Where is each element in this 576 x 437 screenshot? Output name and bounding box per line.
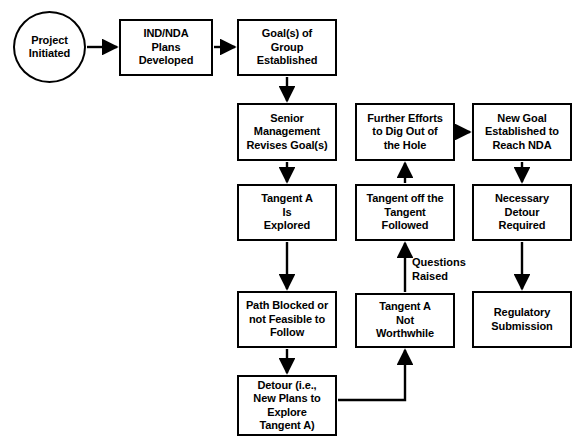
node-detour-new-plans[interactable]: Detour (i.e., New Plans to Explore Tange… — [237, 375, 337, 436]
node-further-efforts-dig-out[interactable]: Further Efforts to Dig Out of the Hole — [355, 103, 455, 161]
node-label: Goal(s) of Group Established — [255, 27, 320, 68]
node-label: Tangent off the Tangent Followed — [364, 192, 445, 233]
node-tangent-a-is-explored[interactable]: Tangent A Is Explored — [237, 184, 337, 241]
node-goals-of-group-established[interactable]: Goal(s) of Group Established — [237, 19, 337, 76]
node-new-goal-established-reach-nda[interactable]: New Goal Established to Reach NDA — [472, 103, 572, 161]
node-label: Path Blocked or not Feasible to Follow — [244, 299, 330, 340]
node-tangent-a-not-worthwhile[interactable]: Tangent A Not Worthwhile — [355, 293, 455, 348]
node-label: Senior Management Revises Goal(s) — [244, 112, 329, 153]
edge-detour-to-notworthwhile — [338, 350, 405, 400]
node-regulatory-submission[interactable]: Regulatory Submission — [472, 291, 572, 348]
flowchart-canvas: Project Initiated IND/NDA Plans Develope… — [0, 0, 576, 437]
node-label: New Goal Established to Reach NDA — [483, 112, 561, 153]
node-label: Detour (i.e., New Plans to Explore Tange… — [251, 379, 322, 433]
node-label: Regulatory Submission — [489, 306, 554, 333]
node-label: Necessary Detour Required — [493, 192, 551, 233]
node-label: Project Initiated — [27, 34, 72, 61]
node-tangent-off-the-tangent-followed[interactable]: Tangent off the Tangent Followed — [355, 184, 455, 241]
node-necessary-detour-required[interactable]: Necessary Detour Required — [472, 184, 572, 241]
node-ind-nda-plans-developed[interactable]: IND/NDA Plans Developed — [119, 19, 213, 76]
node-label: IND/NDA Plans Developed — [137, 27, 196, 68]
node-label: Tangent A Is Explored — [259, 192, 315, 233]
node-path-blocked-or-not-feasible[interactable]: Path Blocked or not Feasible to Follow — [237, 291, 337, 348]
node-senior-management-revises-goals[interactable]: Senior Management Revises Goal(s) — [237, 103, 337, 161]
node-project-initiated[interactable]: Project Initiated — [13, 11, 86, 83]
edge-label-questions-raised: Questions Raised — [412, 256, 466, 283]
node-label: Tangent A Not Worthwhile — [374, 300, 436, 341]
node-label: Further Efforts to Dig Out of the Hole — [365, 112, 445, 153]
